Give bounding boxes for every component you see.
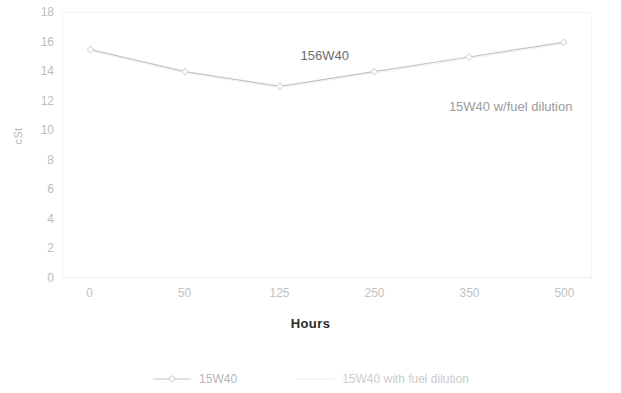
- x-axis-tick-label: 125: [269, 286, 289, 300]
- series-marker: [276, 83, 283, 90]
- series-marker: [466, 54, 473, 61]
- viscosity-line-chart: cSt 024681012141618 050125250350500 Hour…: [0, 0, 621, 393]
- legend-label: 15W40: [199, 372, 237, 386]
- y-axis-tick-labels: 024681012141618: [22, 0, 54, 290]
- chart-annotation: 15W40 w/fuel dilution: [449, 99, 573, 114]
- series-marker: [371, 68, 378, 75]
- series-marker: [182, 68, 189, 75]
- legend-swatch: [152, 374, 192, 384]
- y-axis-tick-label: 6: [22, 183, 54, 195]
- y-axis-tick-label: 8: [22, 154, 54, 166]
- x-axis-tick-labels: 050125250350500: [62, 286, 592, 304]
- series-marker: [560, 39, 567, 46]
- y-axis-tick-label: 16: [22, 36, 54, 48]
- chart-annotation: 156W40: [301, 48, 349, 63]
- y-axis-tick-label: 2: [22, 242, 54, 254]
- legend-item[interactable]: 15W40: [152, 372, 237, 386]
- y-axis-tick-label: 14: [22, 65, 54, 77]
- chart-legend: 15W4015W40 with fuel dilution: [0, 368, 621, 390]
- y-axis-tick-label: 12: [22, 95, 54, 107]
- legend-item[interactable]: 15W40 with fuel dilution: [295, 372, 469, 386]
- legend-label: 15W40 with fuel dilution: [342, 372, 469, 386]
- y-axis-tick-label: 4: [22, 213, 54, 225]
- x-axis-tick-label: 50: [178, 286, 191, 300]
- legend-swatch: [295, 374, 335, 384]
- x-axis-tick-label: 500: [554, 286, 574, 300]
- x-axis-title: Hours: [0, 316, 621, 331]
- y-axis-tick-label: 0: [22, 272, 54, 284]
- x-axis-tick-label: 250: [364, 286, 384, 300]
- x-axis-tick-label: 350: [459, 286, 479, 300]
- y-axis-tick-label: 10: [22, 124, 54, 136]
- x-axis-tick-label: 0: [86, 286, 93, 300]
- y-axis-tick-label: 18: [22, 6, 54, 18]
